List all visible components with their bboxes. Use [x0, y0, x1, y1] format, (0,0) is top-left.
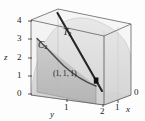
point-coordinates-label: (1, 1, 1)	[53, 70, 77, 78]
z-tick-label-2: 2	[17, 53, 22, 62]
x-tick-label-1: 1	[115, 103, 120, 112]
z-axis-label: z	[4, 53, 8, 62]
curve-c2-label: C2	[38, 41, 48, 51]
y-tick-label-2: 2	[100, 107, 105, 116]
y-tick-label-1: 1	[64, 103, 69, 112]
y-axis-label: y	[50, 110, 54, 119]
curve-c2-subscript: 2	[44, 43, 47, 50]
point-marker	[94, 78, 99, 84]
figure-3d-tangent-line: 4 3 2 1 0 z 1 2 y 1 0 x C2 T2 (1, 1, 1)	[0, 0, 145, 121]
z-tick-label-1: 1	[17, 71, 22, 80]
x-tick-label-0: 0	[134, 88, 139, 97]
z-tick-label-0: 0	[17, 89, 22, 98]
tangent-t2-subscript: 2	[68, 30, 71, 37]
z-tick-label-4: 4	[17, 16, 22, 25]
z-tick-label-3: 3	[17, 34, 22, 43]
x-axis-label: x	[126, 105, 130, 114]
tangent-t2-label: T2	[63, 28, 72, 38]
